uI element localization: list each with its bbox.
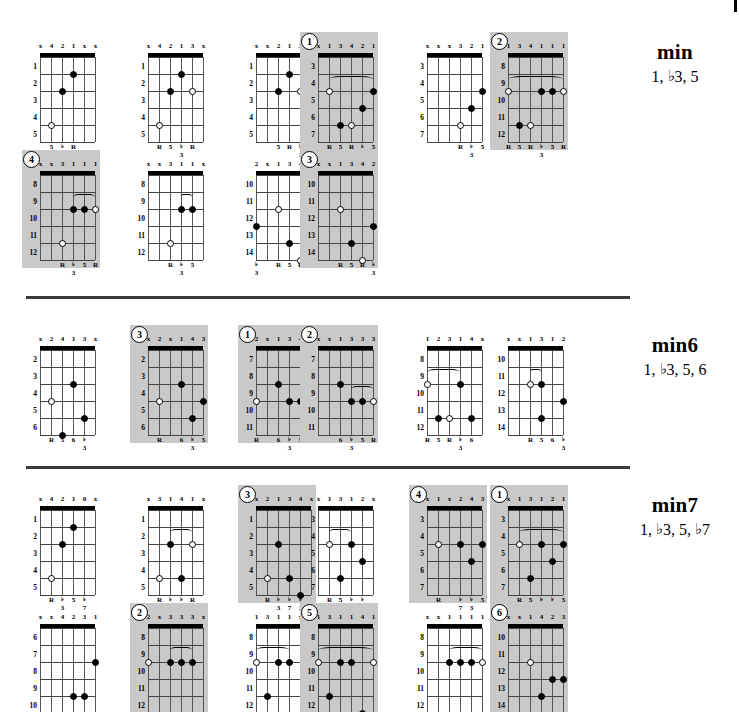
filled-note-dot (549, 558, 556, 565)
chord-diagram[interactable]: 6xx14231011121314R5♭7♭3 (490, 603, 568, 712)
fret-number: 12 (133, 248, 145, 257)
fingering-row: xx1333 (313, 335, 379, 343)
fingering-4: 3 (455, 42, 466, 50)
chord-diagram[interactable]: 22x333x89101112R♭7♭35 (130, 603, 208, 712)
interval-5: ♭3 (466, 143, 477, 159)
fingering-row: 131141 (313, 613, 379, 621)
open-note-dot (505, 88, 512, 95)
fret-number: 6 (412, 566, 424, 575)
interval-1 (143, 436, 154, 452)
chord-diagram[interactable]: x4213x12345R5♭3R (130, 32, 208, 150)
fret-number: 12 (493, 389, 505, 398)
chord-diagram[interactable]: 213411189101112R5R♭35R (490, 32, 568, 150)
fingering-4: 1 (284, 613, 295, 621)
filled-note-dot (359, 105, 366, 112)
fingering-2: 2 (433, 335, 444, 343)
fingering-5: 4 (466, 495, 477, 503)
fingering-4: 1 (346, 495, 357, 503)
string-3 (170, 510, 171, 595)
chord-diagram[interactable]: xx4231678910R♭7♭35 (22, 603, 100, 712)
fingering-3: 1 (525, 613, 536, 621)
fingering-2: 1 (324, 495, 335, 503)
string-6 (373, 510, 374, 595)
fret-number: 12 (25, 248, 37, 257)
fret-number: 4 (412, 532, 424, 541)
chord-diagram[interactable]: x3141x12345R♭3♭7R (130, 485, 208, 603)
chord-diagram[interactable]: xx311x89101112R♭35 (130, 150, 208, 268)
filled-note-dot (527, 575, 534, 582)
string-2 (438, 57, 439, 142)
chord-diagram[interactable]: 4xx311189101112R♭35R (22, 150, 100, 268)
chord-diagram[interactable]: xx13121011121314R56♭3 (490, 325, 568, 443)
string-5 (192, 175, 193, 260)
fingering-row: x13121 (503, 495, 569, 503)
fingering-6: x (198, 160, 209, 168)
fret-number: 11 (493, 372, 505, 381)
interval-1: ♭3 (251, 261, 262, 277)
chord-diagram[interactable]: x1312x34567R5♭7♭3 (300, 485, 378, 603)
chord-diagram[interactable]: xx111189101112♭7♭35R (409, 603, 487, 712)
chord-diagram[interactable]: x4210x12345R♭35♭7 (22, 485, 100, 603)
chord-diagram[interactable]: 4x1x24334567R♭7♭35 (409, 485, 487, 603)
interval-2 (154, 261, 165, 277)
fingering-6: x (90, 42, 101, 50)
string-3 (278, 175, 279, 260)
fingering-2: 3 (154, 495, 165, 503)
chord-diagram[interactable]: 1x1342134567R5R♭35 (300, 32, 378, 150)
filled-note-dot (326, 693, 333, 700)
fingering-1: x (143, 495, 154, 503)
fret-line-1 (148, 192, 203, 193)
string-4 (541, 350, 542, 435)
barre-arc (508, 76, 563, 82)
fret-number: 10 (133, 214, 145, 223)
interval-2: R (154, 436, 165, 452)
string-4 (73, 175, 74, 260)
interval-1: R (503, 143, 514, 159)
fret-number: 5 (133, 583, 145, 592)
fingering-6: 1 (368, 42, 379, 50)
fingering-2: x (433, 613, 444, 621)
fret-line-3 (148, 679, 203, 680)
fingering-6: 2 (368, 160, 379, 168)
filled-note-dot (70, 693, 77, 700)
interval-row: R♭35R (35, 261, 101, 277)
interval-row: R♭35 (422, 143, 488, 159)
chord-diagram[interactable]: 3x2x14323456R6♭35 (130, 325, 208, 443)
chord-diagram[interactable]: 3xx13421011121314R5R♭3 (300, 150, 378, 268)
filled-note-dot (468, 415, 475, 422)
chord-diagram[interactable]: 513114189101112R5♭7♭3♭7R (300, 603, 378, 712)
interval-4: ♭3 (346, 436, 357, 452)
open-note-dot (275, 206, 282, 213)
string-4 (73, 510, 74, 595)
fret-number: 3 (493, 515, 505, 524)
fret-number: 11 (25, 231, 37, 240)
open-note-dot (446, 415, 453, 422)
chord-diagram[interactable]: 1x1312134567R5♭7♭35 (490, 485, 568, 603)
fingering-row: 2x333x (143, 613, 209, 621)
chord-diagram[interactable]: x421xx123455♭3R (22, 32, 100, 150)
filled-note-dot (178, 575, 185, 582)
chord-diagram[interactable]: 2xx133378910116♭35R (300, 325, 378, 443)
fret-line-2 (40, 91, 95, 92)
string-2 (51, 175, 52, 260)
fret-line-0 (148, 175, 203, 176)
fret-number: 12 (241, 214, 253, 223)
fret-number: 5 (25, 583, 37, 592)
string-6 (203, 350, 204, 435)
chord-diagram[interactable]: 12314x89101112R5R♭36 (409, 325, 487, 443)
fret-line-1 (40, 74, 95, 75)
string-5 (471, 350, 472, 435)
fret-line-0 (148, 57, 203, 58)
fret-line-0 (427, 57, 482, 58)
fret-number: 10 (241, 406, 253, 415)
fret-line-4 (318, 578, 373, 579)
chord-diagram[interactable]: xxx32134567R♭35 (409, 32, 487, 150)
chord-diagram[interactable]: x2413x23456R56♭3 (22, 325, 100, 443)
fingering-row: xx4231 (35, 613, 101, 621)
string-5 (192, 628, 193, 712)
fret-number: 9 (303, 389, 315, 398)
fingering-row: x1312x (313, 495, 379, 503)
interval-1: R (251, 436, 262, 452)
fingering-4: 3 (176, 613, 187, 621)
string-1 (318, 350, 319, 435)
